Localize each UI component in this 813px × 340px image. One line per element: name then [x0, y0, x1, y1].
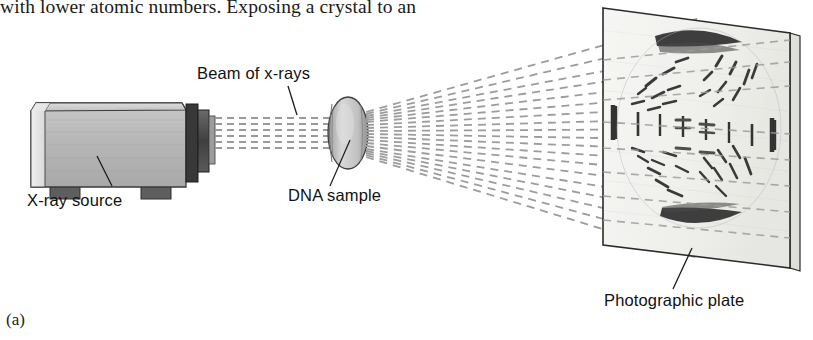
source-nozzle [186, 104, 215, 182]
dna-sample-disc [328, 97, 368, 169]
photographic-plate [600, 8, 800, 271]
plate-thickness-edge [790, 33, 800, 271]
xray-source-machine [31, 103, 215, 199]
figure-caption: (a) [6, 310, 25, 330]
label-dna-sample: DNA sample [288, 186, 381, 205]
leader-line-beam [288, 86, 297, 115]
label-photographic-plate: Photographic plate [604, 291, 744, 310]
figure-canvas: with lower atomic numbers. Exposing a cr… [0, 0, 813, 340]
incident-beam [215, 118, 332, 148]
label-beam-of-xrays: Beam of x-rays [197, 64, 310, 83]
xray-diffraction-diagram [0, 0, 813, 340]
source-top-bevel [31, 103, 186, 111]
label-xray-source: X-ray source [27, 191, 122, 210]
